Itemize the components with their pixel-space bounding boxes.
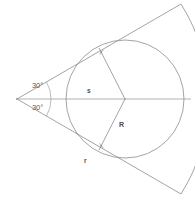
right-angle-dot-upper: [101, 52, 102, 53]
angle-arc-icon-upper: [47, 82, 52, 99]
angle-label-upper: 30°: [32, 82, 43, 90]
angle-arc-icon-lower: [47, 99, 52, 116]
angle-label-lower: 30°: [32, 104, 43, 112]
radius-label-R: R: [119, 121, 124, 128]
geometry-diagram: 30° 30° s R r: [0, 0, 195, 198]
apex-vertex-point: [16, 98, 18, 100]
circle-center-point: [124, 98, 126, 100]
diagram-canvas: [0, 0, 195, 198]
radius-line-upper: [99, 48, 125, 99]
right-angle-dot-lower: [101, 145, 102, 146]
radius-label-r: r: [84, 158, 87, 165]
segment-label-s: s: [87, 88, 91, 95]
wedge-edge-lower: [17, 99, 181, 194]
